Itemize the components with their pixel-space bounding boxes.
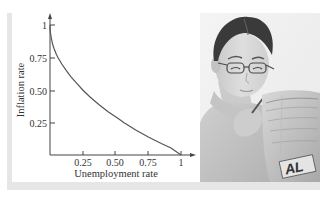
- y-axis-label: Inflation rate: [15, 62, 26, 117]
- y-tick-label: 0.50: [30, 86, 48, 97]
- x-tick-label: 0.25: [74, 157, 92, 168]
- x-tick-label: 0.50: [106, 157, 124, 168]
- y-ticks: [50, 25, 55, 123]
- y-tick-label: 0.75: [30, 53, 48, 64]
- y-tick-label: 0.25: [30, 118, 48, 129]
- x-axis-label: Unemployment rate: [74, 168, 158, 179]
- y-tick-label: 1: [42, 20, 47, 31]
- x-axis-arrow-icon: [190, 153, 196, 157]
- x-tick-label: 1: [179, 157, 184, 168]
- x-ticks: [83, 151, 181, 155]
- photo-illustration: AL: [200, 13, 320, 182]
- photo-woman-reading-newspaper: AL: [200, 13, 320, 182]
- x-tick-label: 0.75: [139, 157, 157, 168]
- y-axis-arrow-icon: [48, 13, 52, 19]
- phillips-curve-line: [50, 25, 181, 155]
